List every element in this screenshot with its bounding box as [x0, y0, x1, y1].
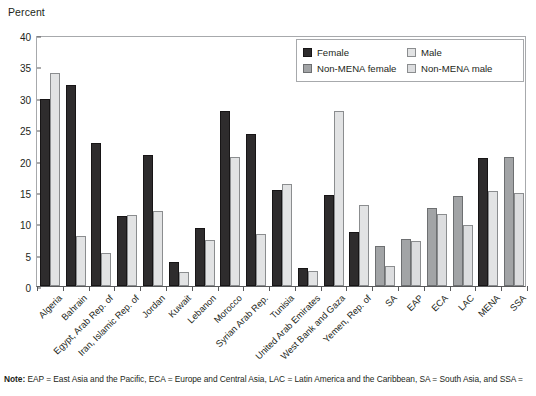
- bar-nmmale: [411, 241, 421, 286]
- bar-male: [256, 234, 266, 286]
- legend-item-female: Female: [303, 47, 407, 58]
- x-axis-label: Jordan: [140, 293, 167, 320]
- bar-group: [37, 37, 63, 286]
- x-axis-tick-mark: [346, 286, 347, 291]
- bar-male: [205, 240, 215, 286]
- x-axis-tick-mark: [114, 286, 115, 291]
- x-axis-tick-mark: [450, 286, 451, 291]
- x-axis-tick-mark: [424, 286, 425, 291]
- x-axis-tick-mark: [192, 286, 193, 291]
- bar-nmfemale: [375, 246, 385, 286]
- bar-female: [66, 85, 76, 286]
- bar-female: [349, 232, 359, 286]
- bar-male: [101, 253, 111, 286]
- bar-male: [127, 215, 137, 286]
- bar-female: [195, 228, 205, 286]
- bar-female: [143, 155, 153, 286]
- bar-nmfemale: [504, 157, 514, 286]
- x-axis-labels: AlgeriaBahrainEgypt, Arab Rep. ofIran, I…: [36, 293, 526, 365]
- bar-male: [230, 157, 240, 286]
- x-axis-tick-mark: [269, 286, 270, 291]
- y-axis-title: Percent: [8, 6, 45, 18]
- bar-nmmale: [385, 266, 395, 286]
- bar-group: [166, 37, 192, 286]
- legend-swatch-female-icon: [303, 48, 312, 57]
- bar-female: [298, 268, 308, 286]
- legend-item-non-mena-male: Non-MENA male: [407, 63, 521, 74]
- y-axis-tick-label: 30: [20, 94, 37, 105]
- bar-nmmale: [514, 193, 524, 286]
- bar-group: [140, 37, 166, 286]
- x-axis-tick-mark: [243, 286, 244, 291]
- bar-female: [324, 195, 334, 286]
- legend-item-non-mena-female: Non-MENA female: [303, 63, 407, 74]
- x-axis-label: MENA: [476, 293, 502, 319]
- bar-female: [117, 216, 127, 286]
- chart-container: Percent 0510152025303540 AlgeriaBahrainE…: [0, 0, 536, 396]
- legend-label-non-mena-male: Non-MENA male: [421, 63, 492, 74]
- y-axis-tick-label: 25: [20, 126, 37, 137]
- x-axis-label: SA: [383, 293, 399, 309]
- bar-group: [89, 37, 115, 286]
- bar-group: [218, 37, 244, 286]
- bar-male: [334, 111, 344, 286]
- bar-male: [179, 272, 189, 286]
- note-label: Note:: [4, 374, 25, 384]
- bar-female: [220, 111, 230, 286]
- x-axis-tick-mark: [295, 286, 296, 291]
- bar-female: [40, 99, 50, 286]
- x-axis-tick-mark: [166, 286, 167, 291]
- x-axis-label: ECA: [430, 293, 450, 313]
- legend-swatch-non-mena-female-icon: [303, 64, 312, 73]
- bar-group: [269, 37, 295, 286]
- x-axis-tick-mark: [63, 286, 64, 291]
- x-axis-label: EAP: [405, 293, 425, 313]
- bar-nmfemale: [427, 208, 437, 286]
- bar-group: [63, 37, 89, 286]
- bar-group: [243, 37, 269, 286]
- x-axis-tick-mark: [140, 286, 141, 291]
- y-axis-tick-label: 15: [20, 188, 37, 199]
- chart-note: Note: EAP = East Asia and the Pacific, E…: [4, 374, 536, 384]
- bar-male: [76, 236, 86, 286]
- legend-swatch-male-icon: [407, 48, 416, 57]
- x-axis-tick-mark: [89, 286, 90, 291]
- note-text: EAP = East Asia and the Pacific, ECA = E…: [25, 374, 523, 384]
- bar-group: [114, 37, 140, 286]
- y-axis-tick-label: 10: [20, 220, 37, 231]
- chart-legend: Female Male Non-MENA female Non-MENA mal…: [296, 39, 524, 82]
- y-axis-tick-label: 5: [25, 251, 37, 262]
- y-axis-tick-label: 0: [25, 283, 37, 294]
- bar-male: [308, 271, 318, 286]
- bar-group: [192, 37, 218, 286]
- x-axis-tick-mark: [321, 286, 322, 291]
- legend-label-male: Male: [421, 47, 442, 58]
- legend-swatch-non-mena-male-icon: [407, 64, 416, 73]
- bar-nmfemale: [401, 239, 411, 286]
- bar-nmfemale: [453, 196, 463, 286]
- bar-female: [91, 143, 101, 286]
- x-axis-tick-mark: [37, 286, 38, 291]
- bar-male: [50, 73, 60, 286]
- x-axis-label: Yemen, Rep. of: [322, 293, 374, 345]
- legend-item-male: Male: [407, 47, 521, 58]
- bar-nmmale: [437, 214, 447, 286]
- y-axis-tick-label: 40: [20, 32, 37, 43]
- bar-male: [282, 184, 292, 286]
- x-axis-label: LAC: [457, 293, 477, 313]
- x-axis-tick-mark: [475, 286, 476, 291]
- y-axis-tick-label: 20: [20, 157, 37, 168]
- x-axis-tick-mark: [501, 286, 502, 291]
- x-axis-tick-mark: [218, 286, 219, 291]
- bar-nmmale: [463, 225, 473, 286]
- bar-female: [272, 190, 282, 286]
- y-axis-tick-label: 35: [20, 63, 37, 74]
- bar-female: [169, 262, 179, 286]
- bar-male: [488, 191, 498, 286]
- x-axis-label: SSA: [508, 293, 528, 313]
- x-axis-tick-mark: [372, 286, 373, 291]
- bar-male: [153, 211, 163, 286]
- x-axis-tick-mark: [527, 286, 528, 291]
- bar-male: [359, 205, 369, 286]
- bar-female: [246, 134, 256, 286]
